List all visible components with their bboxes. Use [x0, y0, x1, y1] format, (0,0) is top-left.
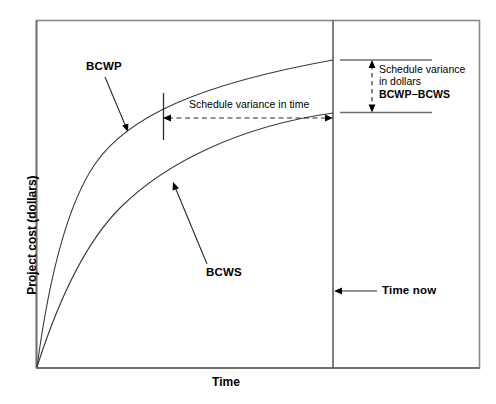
evm-diagram: [0, 0, 496, 404]
schedule-variance-dollars-label: Schedule variance in dollars BCWP−BCWS: [379, 63, 465, 100]
bcwp-label: BCWP: [86, 60, 122, 74]
bcws-label: BCWS: [206, 266, 242, 280]
time-now-label: Time now: [382, 284, 436, 298]
schedule-variance-dollars-line-1: Schedule variance: [379, 63, 465, 75]
x-axis-label: Time: [186, 375, 266, 389]
y-axis-label: Project cost (dollars): [25, 155, 39, 315]
schedule-variance-time-label: Schedule variance in time: [189, 98, 309, 110]
schedule-variance-dollars-line-2: in dollars: [379, 75, 465, 87]
schedule-variance-dollars-formula: BCWP−BCWS: [379, 88, 465, 100]
